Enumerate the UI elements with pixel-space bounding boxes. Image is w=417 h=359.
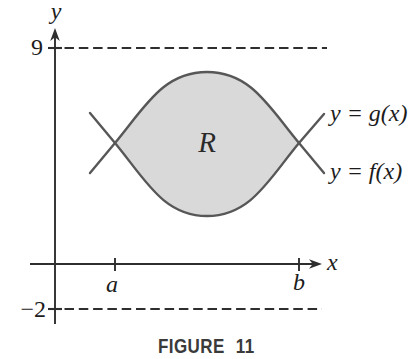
x-axis-label: x (326, 249, 338, 275)
figure-caption: FIGURE 11 (158, 335, 255, 358)
y-axis-label: y (49, 0, 62, 24)
curve-f-label: y = f(x) (328, 158, 402, 184)
figure-11-panel: y 9 −2 x a b R y = g(x) y = f(x) FIGURE … (0, 0, 417, 359)
a-bound-label: a (106, 271, 118, 297)
yneg2-value-label: −2 (20, 296, 46, 322)
region-R-label: R (197, 126, 216, 158)
figure-11-plot: y 9 −2 x a b R y = g(x) y = f(x) FIGURE … (0, 0, 417, 359)
b-bound-label: b (293, 269, 305, 295)
curve-g-label: y = g(x) (328, 100, 407, 126)
y9-value-label: 9 (31, 34, 43, 60)
